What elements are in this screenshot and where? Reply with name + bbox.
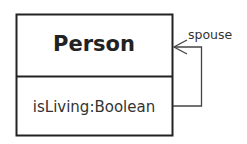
- uml-diagram: Person isLiving:Boolean spouse: [0, 0, 247, 144]
- class-box-person[interactable]: Person isLiving:Boolean: [17, 15, 173, 136]
- class-attribute: isLiving:Boolean: [33, 98, 155, 116]
- role-label: spouse: [188, 27, 233, 42]
- self-association-spouse[interactable]: spouse: [173, 27, 233, 106]
- class-name: Person: [53, 32, 135, 56]
- association-line: [173, 47, 202, 106]
